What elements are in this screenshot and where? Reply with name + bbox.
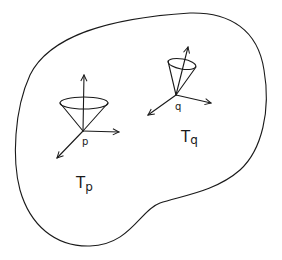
time-axis-arrow-p [83,75,84,131]
point-label-p: p [82,136,88,147]
manifold-boundary [15,13,266,246]
y-axis-arrow-q [148,95,176,115]
point-label-q: q [175,101,181,112]
y-axis-arrow-p [57,131,83,158]
time-axis-arrow-q [176,47,188,95]
tangent-space-label-p: Tp [75,174,93,194]
tangent-space-label-q: Tq [180,128,198,147]
manifold-diagram: p q Tq Tp [0,0,282,260]
x-axis-arrow-p [83,131,119,132]
